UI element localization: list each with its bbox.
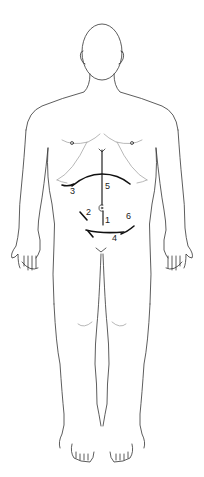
label-1: 1 [105, 215, 110, 225]
right-arm [12, 130, 49, 270]
label-4: 4 [112, 233, 117, 243]
head [80, 24, 123, 80]
label-2: 2 [86, 207, 91, 217]
legs [54, 248, 150, 462]
umbilicus [99, 205, 103, 211]
left-arm [156, 130, 193, 270]
label-5: 5 [105, 181, 110, 191]
label-3: 3 [70, 186, 75, 196]
incision-4-pfannenstiel [86, 230, 124, 233]
neck-shoulders [26, 74, 178, 130]
label-6: 6 [126, 211, 131, 221]
incision-5-chevron [72, 174, 130, 186]
body-diagram: 1 2 3 4 5 6 [0, 0, 204, 477]
